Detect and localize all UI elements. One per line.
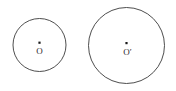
large-circle-outline xyxy=(89,8,165,84)
large-circle-center-label: O′ xyxy=(123,48,131,57)
figure-canvas xyxy=(0,0,176,91)
small-circle-outline xyxy=(13,19,66,72)
small-circle-center-label: O xyxy=(36,47,43,56)
large-circle-center-point xyxy=(125,42,127,44)
small-circle-center-point xyxy=(38,42,40,44)
geometry-figure: O O′ xyxy=(0,0,176,91)
